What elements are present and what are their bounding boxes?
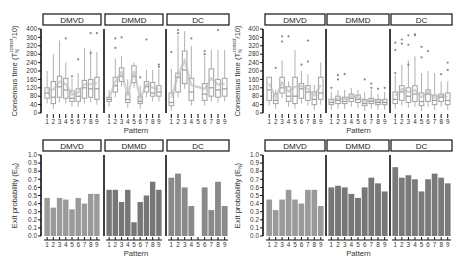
x-tick-label: 4	[287, 118, 291, 125]
outlier-point	[330, 87, 332, 89]
x-tick-label: 2	[400, 118, 404, 125]
y-tick-label: 0.0	[250, 232, 259, 239]
bar	[406, 175, 412, 236]
bar	[131, 222, 136, 236]
y-tick-label: 0.9	[250, 159, 259, 166]
box	[406, 88, 411, 103]
x-tick-label: 3	[280, 241, 284, 248]
facet-label: DMVD	[283, 16, 307, 25]
chart-panel-top-left: DMVDDMMDDC04080120160200240280320360400C…	[9, 14, 229, 135]
y-tick-label: 160	[26, 76, 37, 83]
y-tick-label: 400	[248, 25, 259, 32]
bar	[150, 182, 155, 236]
facet-dmvd: 123456789	[267, 35, 323, 125]
bar	[182, 187, 188, 236]
facet-label: DMVD	[283, 142, 307, 151]
bar	[368, 178, 374, 236]
y-axis-label: Exit probability (EN)	[233, 162, 243, 228]
box	[222, 78, 227, 96]
y-tick-label: 200	[248, 67, 259, 74]
bar	[188, 206, 194, 236]
x-tick-label: 6	[300, 241, 304, 248]
facet-dc: 123456789	[390, 155, 451, 248]
bar	[286, 190, 292, 236]
x-tick-label: 3	[183, 118, 187, 125]
x-tick-label: 6	[426, 118, 430, 125]
y-tick-label: 360	[26, 34, 37, 41]
x-tick-label: 5	[356, 118, 360, 125]
y-tick-label: 360	[248, 34, 259, 41]
x-tick-label: 6	[138, 118, 142, 125]
y-tick-label: 0.3	[28, 208, 37, 215]
y-tick-label: 0.8	[28, 167, 37, 174]
x-tick-label: 2	[52, 241, 56, 248]
facet-strip-dmvd: DMVD	[43, 14, 101, 25]
x-tick-label: 9	[95, 118, 99, 125]
outlier-point	[414, 33, 416, 35]
outlier-point	[114, 37, 116, 39]
outlier-point	[407, 34, 409, 36]
box	[293, 77, 298, 103]
y-tick-label: 0.7	[250, 176, 259, 183]
outlier-point	[77, 58, 79, 60]
x-tick-label: 2	[176, 241, 180, 248]
y-tick-label: 240	[248, 59, 259, 66]
x-tick-label: 5	[420, 241, 424, 248]
chart-panel-bottom-right: DMVDDMMDDC0.00.10.20.30.40.50.60.70.80.9…	[233, 140, 452, 258]
outlier-point	[65, 37, 67, 39]
x-tick-label: 3	[120, 241, 124, 248]
x-axis: 123456789	[393, 114, 449, 125]
x-tick-label: 7	[145, 118, 149, 125]
x-tick-label: 8	[313, 241, 317, 248]
bar	[292, 200, 298, 236]
x-tick-label: 8	[376, 118, 380, 125]
outlier-point	[344, 73, 346, 75]
x-tick-label: 3	[58, 118, 62, 125]
x-axis: 123456789	[266, 237, 324, 248]
facet-strip-dc: DC	[167, 14, 229, 25]
outlier-point	[447, 69, 449, 71]
facet-label: DMVD	[60, 142, 84, 151]
facet-strip-dc: DC	[391, 140, 452, 151]
x-tick-label: 9	[157, 118, 161, 125]
y-tick-label: 0.9	[28, 159, 37, 166]
x-tick-label: 3	[343, 118, 347, 125]
x-tick-label: 4	[413, 118, 417, 125]
x-tick-label: 4	[350, 241, 354, 248]
y-axis: 04080120160200240280320360400	[26, 25, 41, 116]
y-tick-label: 1.0	[28, 151, 37, 158]
bar	[279, 200, 285, 236]
outlier-point	[204, 53, 206, 55]
x-axis-label: Pattern	[346, 126, 370, 135]
x-tick-label: 9	[446, 118, 450, 125]
outlier-point	[307, 39, 309, 41]
x-tick-label: 6	[300, 118, 304, 125]
box	[445, 93, 450, 105]
x-tick-label: 1	[45, 241, 49, 248]
x-tick-label: 2	[114, 118, 118, 125]
x-tick-label: 5	[356, 241, 360, 248]
x-tick-label: 5	[132, 118, 136, 125]
x-tick-label: 9	[383, 118, 387, 125]
y-axis-label: Consensus time (TNcorrect/10)	[232, 25, 243, 117]
y-tick-label: 40	[252, 101, 260, 108]
x-tick-label: 1	[330, 118, 334, 125]
outlier-point	[177, 29, 179, 31]
x-tick-label: 6	[203, 241, 207, 248]
outlier-point	[307, 60, 309, 62]
x-tick-label: 8	[151, 241, 155, 248]
x-tick-label: 5	[420, 118, 424, 125]
facet-dmvd: 123456789	[266, 190, 324, 248]
x-tick-label: 4	[287, 241, 291, 248]
outlier-point	[170, 51, 172, 53]
x-tick-label: 3	[183, 241, 187, 248]
bar	[419, 191, 425, 236]
facet-dmmd: 123456789	[104, 155, 162, 248]
x-tick-label: 5	[70, 241, 74, 248]
outlier-point	[90, 32, 92, 34]
outlier-point	[158, 64, 160, 66]
x-tick-label: 7	[370, 241, 374, 248]
y-tick-label: 80	[252, 92, 260, 99]
x-tick-label: 7	[210, 241, 214, 248]
x-tick-label: 5	[132, 241, 136, 248]
